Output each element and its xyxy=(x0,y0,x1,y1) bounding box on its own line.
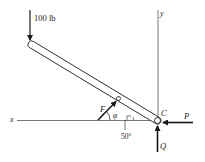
force-P-label: P xyxy=(183,111,189,121)
angle-phi-label: φ xyxy=(113,111,117,120)
pin-F-icon xyxy=(117,97,121,101)
point-C-label: C xyxy=(161,108,167,118)
rod xyxy=(28,41,161,124)
force-F-label: F xyxy=(99,104,106,114)
pin-C xyxy=(155,118,161,124)
load-label: 100 lb xyxy=(34,13,56,23)
statics-diagram: x y 100 lb C F φ 50° P Q xyxy=(0,0,205,162)
y-axis-label: y xyxy=(159,9,164,18)
angle-50-label: 50° xyxy=(121,132,132,141)
right-angle-marker xyxy=(125,116,134,130)
x-axis-label: x xyxy=(9,115,14,124)
angle-phi-arc xyxy=(107,112,110,120)
force-Q-label: Q xyxy=(160,141,166,151)
